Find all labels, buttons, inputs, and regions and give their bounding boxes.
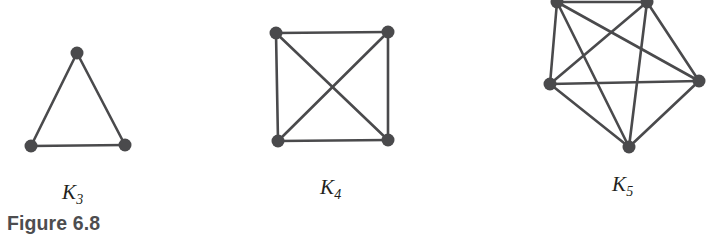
graph-edge bbox=[629, 81, 699, 147]
graph-label-k4-letter: K bbox=[320, 175, 334, 199]
graph-node bbox=[272, 135, 285, 148]
graph-label-k4: K4 bbox=[320, 177, 341, 198]
graph-edge bbox=[77, 53, 125, 145]
graph-edge bbox=[647, 2, 699, 81]
graph-label-k4-subscript: 4 bbox=[334, 187, 341, 202]
graph-label-k3: K3 bbox=[62, 182, 83, 203]
figure-caption: Figure 6.8 bbox=[7, 214, 100, 234]
graph-edge bbox=[31, 53, 77, 146]
graph-node bbox=[270, 27, 283, 40]
graph-label-k3-letter: K bbox=[62, 180, 76, 204]
graph-node bbox=[119, 139, 132, 152]
graph-node bbox=[71, 47, 84, 60]
graph-edge bbox=[550, 81, 699, 84]
graph-node bbox=[551, 0, 564, 9]
graph-node bbox=[382, 134, 395, 147]
graph-node bbox=[544, 78, 557, 91]
graph-node bbox=[382, 26, 395, 39]
graph-edge bbox=[276, 33, 278, 141]
edges-layer bbox=[31, 2, 699, 147]
figure-page: K3 K4 K5 Figure 6.8 bbox=[0, 0, 710, 246]
graph-label-k5-subscript: 5 bbox=[626, 184, 633, 199]
graph-label-k5-letter: K bbox=[612, 172, 626, 196]
graph-label-k3-subscript: 3 bbox=[76, 192, 83, 207]
nodes-layer bbox=[25, 0, 706, 154]
graph-node bbox=[25, 140, 38, 153]
graph-edge bbox=[550, 2, 557, 84]
graph-edge bbox=[550, 84, 629, 147]
graph-diagram-canvas bbox=[0, 0, 710, 246]
graph-edge bbox=[557, 2, 699, 81]
graph-edge bbox=[278, 140, 388, 141]
graph-label-k5: K5 bbox=[612, 174, 633, 195]
graph-node bbox=[693, 75, 706, 88]
graph-edge bbox=[31, 145, 125, 146]
graph-edge bbox=[629, 2, 647, 147]
graph-edge bbox=[276, 32, 388, 33]
graph-edge bbox=[557, 2, 629, 147]
graph-node bbox=[623, 141, 636, 154]
